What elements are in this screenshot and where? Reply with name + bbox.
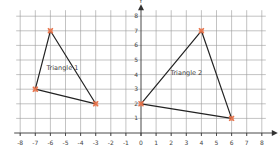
x-tick-label: -5: [63, 139, 69, 146]
y-tick-label: 8: [134, 12, 138, 19]
x-tick-label: -3: [93, 139, 99, 146]
y-tick-label: 3: [134, 85, 138, 92]
y-axis-arrow-icon: [138, 4, 144, 10]
y-tick-label: 7: [134, 27, 138, 34]
x-tick-label: -7: [32, 139, 38, 146]
x-tick-label: 6: [230, 139, 234, 146]
x-tick-label: -1: [123, 139, 129, 146]
y-tick-label: 6: [134, 41, 138, 48]
triangle-label: Triangle 1: [46, 64, 79, 72]
y-tick-label: 4: [134, 71, 138, 78]
x-tick-label: -4: [78, 139, 84, 146]
x-tick-label: 7: [245, 139, 249, 146]
y-tick-label: 1: [134, 114, 138, 121]
y-axis-label: Y: [138, 0, 143, 4]
x-tick-label: 2: [169, 139, 173, 146]
y-tick-label: 5: [134, 56, 138, 63]
x-tick-label: -8: [17, 139, 23, 146]
y-tick-label: 2: [134, 100, 138, 107]
x-tick-label: 8: [260, 139, 264, 146]
coordinate-figure: XY-8-7-6-5-4-3-2-101234567812345678Trian…: [0, 0, 280, 153]
x-tick-label: 0: [139, 139, 143, 146]
x-axis-arrow-icon: [272, 130, 278, 136]
x-tick-label: 1: [154, 139, 158, 146]
x-tick-label: 5: [215, 139, 219, 146]
x-tick-label: 4: [199, 139, 203, 146]
coordinate-grid: XY-8-7-6-5-4-3-2-101234567812345678Trian…: [0, 0, 280, 153]
x-tick-label: 3: [184, 139, 188, 146]
x-tick-label: -6: [47, 139, 53, 146]
x-tick-label: -2: [108, 139, 114, 146]
triangle-label: Triangle 2: [169, 69, 202, 77]
